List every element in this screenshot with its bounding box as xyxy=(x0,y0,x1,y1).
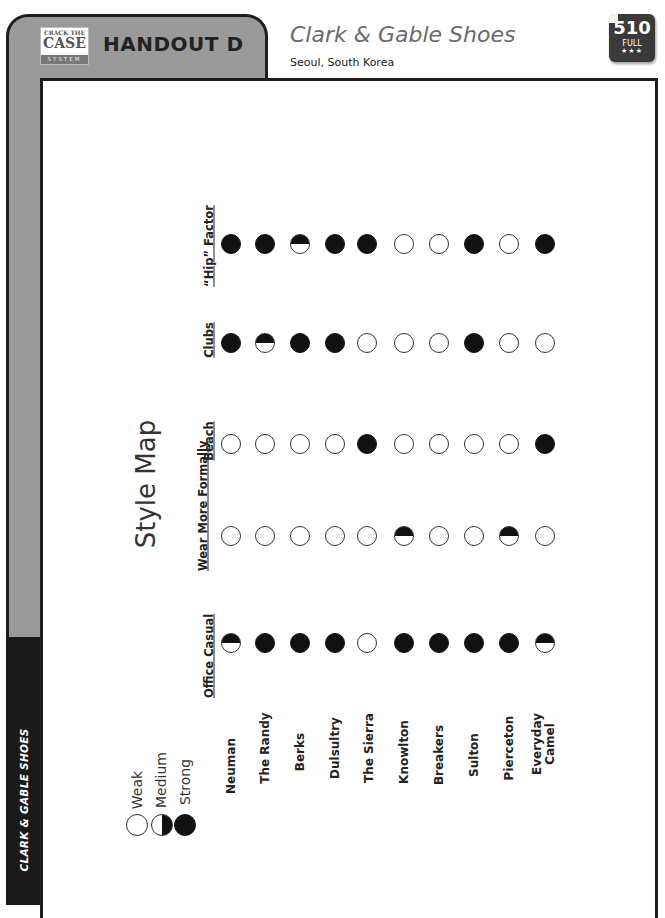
rating-strong-icon xyxy=(464,633,484,653)
rating-strong-icon xyxy=(221,234,241,254)
product-label: Breakers xyxy=(433,725,446,785)
rating-weak-icon xyxy=(499,234,519,254)
rating-strong-icon xyxy=(464,234,484,254)
category-label-clubs: Clubs xyxy=(203,322,216,358)
rating-medium-icon xyxy=(255,333,275,353)
product-label: The Sierra xyxy=(363,713,376,783)
rating-weak-icon xyxy=(325,526,345,546)
rating-weak-icon xyxy=(255,434,275,454)
category-label-formal: Wear More Formally xyxy=(197,491,210,571)
product-label: Knowlton xyxy=(398,720,411,784)
rating-strong-icon xyxy=(535,234,555,254)
rating-strong-icon xyxy=(429,633,449,653)
product-label-everyday-camel: EverydayCamel xyxy=(531,709,557,779)
rating-weak-icon xyxy=(394,333,414,353)
logo-line3: SYSTEM xyxy=(41,55,88,64)
rating-weak-icon xyxy=(464,526,484,546)
rating-medium-icon xyxy=(394,526,414,546)
page-subtitle: Seoul, South Korea xyxy=(290,56,394,69)
rating-weak-icon xyxy=(499,333,519,353)
category-label-office: Office Casual xyxy=(203,614,216,698)
rating-strong-icon xyxy=(357,434,377,454)
rating-weak-icon xyxy=(429,526,449,546)
rating-weak-icon xyxy=(221,434,241,454)
rating-weak-icon xyxy=(535,526,555,546)
rating-weak-icon xyxy=(394,234,414,254)
rating-strong-icon xyxy=(290,333,310,353)
rating-medium-icon xyxy=(499,526,519,546)
rating-weak-icon xyxy=(394,434,414,454)
rating-strong-icon xyxy=(255,234,275,254)
rating-weak-icon xyxy=(290,526,310,546)
rating-strong-icon xyxy=(499,633,519,653)
rating-strong-icon xyxy=(325,234,345,254)
rating-strong-icon xyxy=(325,333,345,353)
rating-weak-icon xyxy=(357,333,377,353)
rating-strong-icon xyxy=(535,434,555,454)
rating-strong-icon xyxy=(357,234,377,254)
rating-medium-icon xyxy=(290,234,310,254)
legend-strong-label: Strong xyxy=(177,759,193,805)
rating-weak-icon xyxy=(325,434,345,454)
badge-number: 510 xyxy=(609,17,655,38)
badge-stars-icon: ★★★ xyxy=(609,47,655,55)
rating-weak-icon xyxy=(464,434,484,454)
rating-weak-icon xyxy=(499,434,519,454)
legend-weak-label: Weak xyxy=(129,771,145,809)
product-label: Pierceton xyxy=(503,716,516,781)
legend-medium-icon xyxy=(151,814,173,836)
legend-weak-icon xyxy=(126,814,148,836)
rating-weak-icon xyxy=(357,633,377,653)
left-gray-strip xyxy=(6,80,43,637)
page-title: Clark & Gable Shoes xyxy=(290,22,515,47)
rating-weak-icon xyxy=(221,526,241,546)
crack-the-case-logo: CRACK THE CASE SYSTEM xyxy=(40,27,89,65)
rating-weak-icon xyxy=(429,333,449,353)
product-label: Dulsultry xyxy=(329,717,342,779)
side-label: CLARK & GABLE SHOES xyxy=(18,728,30,871)
legend-strong-icon xyxy=(174,814,196,836)
handout-label: HANDOUT D xyxy=(103,32,244,56)
difficulty-badge: 510 FULL ★★★ xyxy=(609,14,655,62)
product-label: The Randy xyxy=(259,712,272,783)
product-label: Sulton xyxy=(468,733,481,777)
legend-medium-label: Medium xyxy=(153,752,169,808)
product-label: Neuman xyxy=(225,738,238,794)
rating-strong-icon xyxy=(325,633,345,653)
rating-medium-icon xyxy=(221,633,241,653)
rating-weak-icon xyxy=(535,333,555,353)
rating-strong-icon xyxy=(394,633,414,653)
rating-strong-icon xyxy=(290,633,310,653)
product-label-text: EverydayCamel xyxy=(530,713,557,775)
rating-weak-icon xyxy=(255,526,275,546)
product-label: Berks xyxy=(294,733,307,771)
category-label-hip: “Hip” Factor xyxy=(203,205,216,287)
rating-weak-icon xyxy=(290,434,310,454)
rating-strong-icon xyxy=(464,333,484,353)
rating-medium-icon xyxy=(535,633,555,653)
style-map-title: Style Map xyxy=(131,420,161,548)
rating-weak-icon xyxy=(357,526,377,546)
rating-weak-icon xyxy=(429,234,449,254)
rating-strong-icon xyxy=(255,633,275,653)
rating-weak-icon xyxy=(429,434,449,454)
rating-strong-icon xyxy=(221,333,241,353)
logo-line2: CASE xyxy=(41,35,88,51)
